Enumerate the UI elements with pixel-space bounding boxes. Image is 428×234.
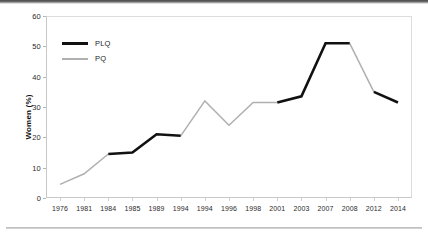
x-tick-label: 1984 (100, 205, 116, 212)
x-tick-label: 2008 (342, 205, 358, 212)
x-tick-mark (350, 198, 351, 201)
y-tick-mark (43, 77, 46, 78)
x-tick-label: 1994 (197, 205, 213, 212)
y-tick-mark (43, 107, 46, 108)
x-tick-mark (326, 198, 327, 201)
x-tick-label: 2003 (293, 205, 309, 212)
series-segment-plq (277, 43, 349, 102)
x-tick-label: 1989 (149, 205, 165, 212)
x-tick-mark (205, 198, 206, 201)
x-tick-mark (301, 198, 302, 201)
x-tick-mark (132, 198, 133, 201)
x-tick-mark (253, 198, 254, 201)
series-segment-pq (181, 101, 278, 136)
x-tick-label: 2007 (318, 205, 334, 212)
x-tick-mark (181, 198, 182, 201)
x-tick-label: 2012 (366, 205, 382, 212)
chart-figure: Women (%) 010203040506019761981198419851… (0, 0, 428, 234)
series-segment-pq (60, 154, 108, 184)
x-tick-label: 1981 (76, 205, 92, 212)
legend-item-plq: PLQ (62, 36, 132, 51)
x-tick-label: 1976 (52, 205, 68, 212)
series-segment-plq (108, 134, 180, 154)
y-tick-mark (43, 168, 46, 169)
x-tick-mark (108, 198, 109, 201)
y-tick-label: 10 (32, 163, 41, 172)
legend-swatch-plq-icon (62, 42, 88, 45)
y-tick-mark (43, 137, 46, 138)
x-tick-label: 1998 (245, 205, 261, 212)
series-segment-plq (374, 92, 398, 103)
legend-swatch-pq-icon (62, 58, 88, 60)
x-tick-mark (398, 198, 399, 201)
x-tick-mark (229, 198, 230, 201)
chart-legend: PLQ PQ (62, 36, 132, 66)
y-tick-mark (43, 46, 46, 47)
x-tick-mark (60, 198, 61, 201)
legend-label-pq: PQ (95, 54, 106, 63)
y-tick-label: 30 (32, 103, 41, 112)
y-tick-mark (43, 16, 46, 17)
x-tick-label: 2001 (269, 205, 285, 212)
legend-label-plq: PLQ (95, 39, 111, 48)
series-segment-pq (350, 43, 374, 92)
y-tick-label: 40 (32, 72, 41, 81)
x-tick-label: 1996 (221, 205, 237, 212)
y-tick-label: 60 (32, 12, 41, 21)
legend-item-pq: PQ (62, 51, 132, 66)
y-tick-label: 50 (32, 42, 41, 51)
x-tick-mark (84, 198, 85, 201)
x-tick-mark (277, 198, 278, 201)
x-tick-label: 2014 (390, 205, 406, 212)
top-scan-band (0, 0, 428, 4)
bottom-divider (6, 227, 422, 229)
y-tick-mark (43, 198, 46, 199)
x-tick-mark (157, 198, 158, 201)
y-tick-label: 20 (32, 133, 41, 142)
x-tick-label: 1985 (124, 205, 140, 212)
y-tick-label: 0 (37, 194, 41, 203)
x-tick-mark (374, 198, 375, 201)
x-tick-label: 1994 (173, 205, 189, 212)
